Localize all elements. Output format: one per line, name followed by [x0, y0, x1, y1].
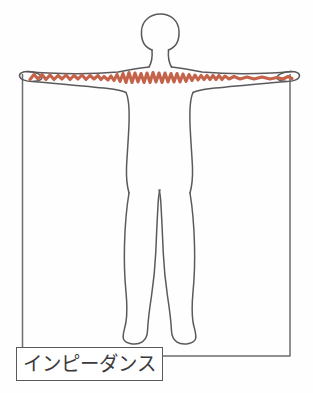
human-body-outline: [20, 14, 300, 344]
body-impedance-diagram: [0, 0, 313, 393]
impedance-label-box: インピーダンス: [16, 347, 163, 381]
measurement-frame: [23, 74, 291, 356]
torso-left-outline: [126, 93, 129, 194]
impedance-label-text: インピーダンス: [23, 354, 155, 374]
shoulder-left-top-outline: [28, 67, 149, 74]
neck-right-outline: [168, 50, 171, 67]
head-outline: [141, 14, 179, 50]
diagram-canvas: インピーダンス: [0, 0, 313, 393]
left-leg-outline: [123, 190, 160, 344]
neck-left-outline: [149, 50, 152, 67]
shoulder-right-top-outline: [172, 67, 292, 74]
right-arm-underside-outline: [193, 81, 286, 92]
right-leg-outline: [159, 190, 196, 344]
left-arm-underside-outline: [33, 81, 126, 92]
torso-right-outline: [190, 93, 193, 194]
